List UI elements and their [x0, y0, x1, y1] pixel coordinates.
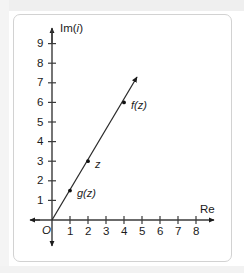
y-tick-label-5: 5	[37, 117, 43, 129]
point-label-g-of-z: g(z)	[77, 188, 96, 199]
y-tick-label-9: 9	[37, 38, 43, 50]
y-tick-label-2: 2	[37, 175, 43, 187]
x-axis	[30, 216, 214, 224]
point-label-z: z	[95, 159, 101, 170]
y-tick-label-4: 4	[37, 136, 43, 148]
y-tick-label-1: 1	[37, 195, 43, 207]
y-tick-label-3: 3	[37, 156, 43, 168]
origin-label: O	[42, 225, 51, 237]
x-axis-label: Re	[200, 204, 215, 216]
x-tick-label-5: 5	[139, 226, 145, 238]
figure-page: 1 2 3 4 5 6 7 8 1 2 3 4 5 6 7 8 9 O Re I…	[0, 0, 244, 273]
y-tick-label-8: 8	[37, 58, 43, 70]
x-tick-label-7: 7	[175, 226, 181, 238]
point-f-of-z	[122, 101, 126, 105]
point-label-f-of-z: f(z)	[131, 100, 147, 111]
y-axis-label: Im(i)	[60, 23, 83, 35]
y-axis-label-prefix: Im(	[60, 22, 77, 34]
y-tick-label-7: 7	[37, 77, 43, 89]
x-tick-label-2: 2	[85, 226, 91, 238]
x-tick-label-4: 4	[121, 226, 127, 238]
point-z	[86, 159, 90, 163]
point-g-of-z	[68, 189, 72, 193]
x-tick-label-3: 3	[103, 226, 109, 238]
x-tick-label-6: 6	[157, 226, 163, 238]
x-tick-label-1: 1	[67, 226, 73, 238]
x-tick-label-8: 8	[193, 226, 199, 238]
y-axis	[48, 28, 56, 246]
y-tick-label-6: 6	[37, 97, 43, 109]
y-axis-label-suffix: )	[79, 22, 83, 34]
